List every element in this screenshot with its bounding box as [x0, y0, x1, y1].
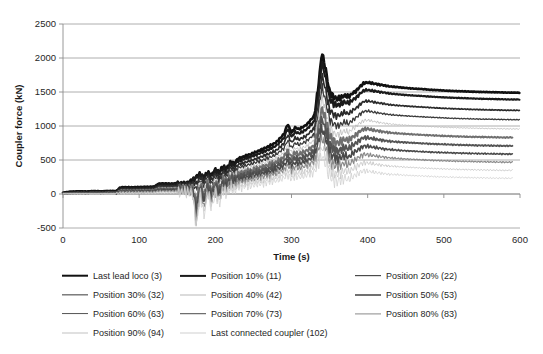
legend-item-label: Position 30% (32)	[93, 290, 164, 300]
legend-line-swatch	[62, 309, 88, 319]
chart-legend: Last lead loco (3)Position 10% (11)Posit…	[0, 262, 543, 354]
legend-item[interactable]: Position 60% (63)	[0, 304, 176, 323]
chart-figure: -500050010001500200025000100200300400500…	[0, 0, 543, 354]
legend-item[interactable]: Position 20% (22)	[345, 266, 525, 285]
legend-line-swatch	[62, 271, 88, 281]
x-axis-tick-label: 200	[207, 234, 223, 245]
legend-item[interactable]: Position 40% (42)	[176, 285, 345, 304]
legend-item[interactable]: Position 50% (53)	[345, 285, 525, 304]
legend-item[interactable]: Last lead loco (3)	[0, 266, 176, 285]
legend-item[interactable]: Last connected coupler (102)	[176, 323, 345, 342]
legend-line-swatch	[355, 271, 381, 281]
legend-item[interactable]: Position 70% (73)	[176, 304, 345, 323]
y-axis-tick-label: 2500	[35, 18, 56, 29]
legend-item[interactable]: Position 80% (83)	[345, 304, 525, 323]
y-axis-tick-label: -500	[37, 222, 56, 233]
legend-line-swatch	[180, 290, 206, 300]
legend-item-label: Last lead loco (3)	[93, 271, 162, 281]
y-axis-tick-label: 2000	[35, 52, 56, 63]
legend-line-swatch	[180, 271, 206, 281]
legend-item-label: Position 20% (22)	[386, 271, 457, 281]
legend-item-label: Position 70% (73)	[211, 309, 282, 319]
legend-line-swatch	[180, 328, 206, 338]
x-axis-tick-label: 0	[60, 234, 65, 245]
legend-row: Position 30% (32)Position 40% (42)Positi…	[0, 285, 543, 304]
legend-item-label: Position 60% (63)	[93, 309, 164, 319]
x-axis-tick-label: 600	[512, 234, 528, 245]
x-axis-tick-label: 300	[284, 234, 300, 245]
x-axis-title: Time (s)	[273, 251, 309, 262]
data-series-line	[63, 135, 512, 225]
legend-row: Position 60% (63)Position 70% (73)Positi…	[0, 304, 543, 323]
legend-item[interactable]: Position 10% (11)	[176, 266, 345, 285]
x-axis-tick-label: 100	[131, 234, 147, 245]
legend-line-swatch	[180, 309, 206, 319]
legend-line-swatch	[355, 309, 381, 319]
y-axis-title: Coupler force (kN)	[13, 85, 24, 168]
legend-item-label: Position 50% (53)	[386, 290, 457, 300]
y-axis-tick-label: 500	[40, 154, 56, 165]
line-chart-plot: -500050010001500200025000100200300400500…	[0, 0, 543, 262]
legend-item[interactable]: Position 90% (94)	[0, 323, 176, 342]
legend-item[interactable]: Position 30% (32)	[0, 285, 176, 304]
x-axis-tick-label: 400	[360, 234, 376, 245]
legend-row: Last lead loco (3)Position 10% (11)Posit…	[0, 266, 543, 285]
y-axis-tick-label: 1500	[35, 86, 56, 97]
legend-item-label: Position 90% (94)	[93, 328, 164, 338]
legend-item-label: Position 10% (11)	[211, 271, 281, 281]
legend-item-label: Last connected coupler (102)	[211, 328, 328, 338]
y-axis-tick-label: 0	[51, 188, 56, 199]
x-axis-tick-label: 500	[436, 234, 452, 245]
legend-line-swatch	[355, 290, 381, 300]
legend-item-label: Position 80% (83)	[386, 309, 457, 319]
legend-line-swatch	[62, 290, 88, 300]
legend-row: Position 90% (94)Last connected coupler …	[0, 323, 543, 342]
legend-item-label: Position 40% (42)	[211, 290, 282, 300]
y-axis-tick-label: 1000	[35, 120, 56, 131]
legend-line-swatch	[62, 328, 88, 338]
